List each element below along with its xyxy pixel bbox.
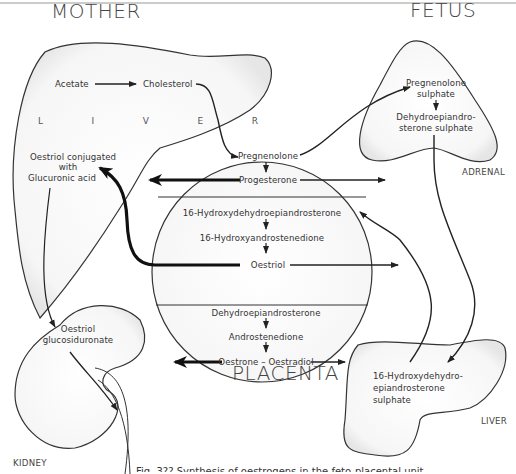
hydroxy-androstenedione-label: 16-Hydroxyandrostenedione: [200, 233, 325, 243]
pregnenolone-sulphate-label-1: Pregnenolone: [406, 78, 466, 88]
maternal-liver-label: L I V E R: [38, 116, 268, 126]
dhea-sulphate-label-2: sterone sulphate: [399, 123, 473, 133]
kidney-oestriol-label-2: glucosiduronate: [43, 335, 114, 345]
placenta-title: PLACENTA: [232, 368, 339, 378]
fetus-title: FETUS: [410, 5, 476, 15]
oestriol-label: Oestriol: [251, 260, 285, 270]
dhea-sulphate-label-1: Dehydroepiandro-: [396, 112, 475, 122]
fetal-liver-compound-3: sulphate: [373, 395, 411, 405]
oestriol-conjugated-label-2: with: [59, 162, 78, 172]
hydroxy-dhea-label: 16-Hydroxydehydroepiandrosterone: [183, 208, 341, 218]
dhea-label: Dehydroepiandrosterone: [211, 308, 320, 318]
mother-title: MOTHER: [51, 6, 141, 16]
fetal-liver-compound-2: epiandrosterone: [373, 383, 445, 393]
oestriol-conjugated-label-1: Oestriol conjugated: [30, 152, 116, 162]
figure-caption: Fig. 3?? Synthesis of oestrogens in the …: [136, 464, 424, 472]
placenta-circle: [152, 162, 372, 382]
fetal-liver-shape: [344, 340, 506, 456]
oestrone-oestradiol-label: Oestrone – Oestradiol: [218, 357, 313, 367]
fetal-adrenal-shape: [360, 41, 498, 162]
adrenal-label: ADRENAL: [462, 167, 505, 177]
oestriol-conjugated-label-3: Glucuronic acid: [28, 173, 96, 183]
fetal-liver-compound-1: 16-Hydroxydehydro-: [373, 371, 463, 381]
progesterone-label: Progesterone: [239, 175, 297, 185]
kidney-oestriol-label-1: Oestriol: [61, 324, 95, 334]
fetal-liver-label: LIVER: [481, 416, 507, 426]
acetate-label: Acetate: [55, 79, 89, 89]
pregnenolone-label: Pregnenolone: [238, 151, 298, 161]
pregnenolone-sulphate-label-2: sulphate: [417, 89, 455, 99]
cholesterol-label: Cholesterol: [143, 79, 193, 89]
androstenedione-label: Androstenedione: [229, 332, 304, 342]
kidney-label: KIDNEY: [13, 458, 47, 468]
